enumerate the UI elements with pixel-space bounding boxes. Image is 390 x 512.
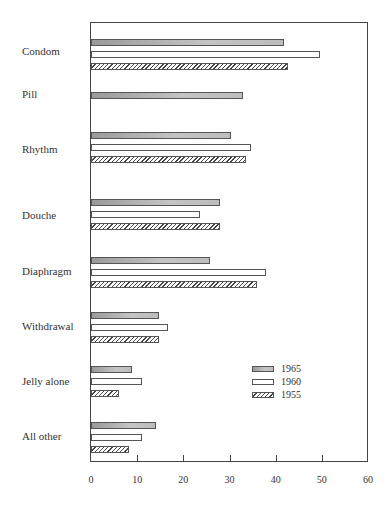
legend-item-1955: 1955 xyxy=(252,388,301,401)
legend-item-1965: 1965 xyxy=(252,362,301,375)
bar-pill-1965 xyxy=(91,92,243,99)
bar-diaphragm-1955 xyxy=(91,281,257,288)
tick-mark xyxy=(276,455,277,462)
bar-condom-1960 xyxy=(91,51,320,58)
label-rhythm: Rhythm xyxy=(22,143,57,155)
bar-withdrawal-1960 xyxy=(91,324,168,331)
tick-label: 50 xyxy=(317,474,327,485)
bar-douche-1960 xyxy=(91,211,200,218)
label-jelly-alone: Jelly alone xyxy=(22,375,69,387)
tick-mark xyxy=(183,455,184,462)
tick-label: 20 xyxy=(178,474,188,485)
legend-swatch-white xyxy=(252,379,274,385)
label-withdrawal: Withdrawal xyxy=(22,320,73,332)
bar-jelly-alone-1965 xyxy=(91,366,132,373)
bar-condom-1955 xyxy=(91,63,288,70)
bar-jelly-alone-1960 xyxy=(91,378,142,385)
bar-rhythm-1955 xyxy=(91,156,246,163)
bar-rhythm-1965 xyxy=(91,132,231,139)
tick-label: 30 xyxy=(225,474,235,485)
bar-douche-1965 xyxy=(91,199,220,206)
bar-diaphragm-1965 xyxy=(91,257,210,264)
tick-label: 60 xyxy=(363,474,373,485)
tick-mark xyxy=(137,455,138,462)
bar-all-other-1965 xyxy=(91,422,156,429)
tick-mark xyxy=(322,455,323,462)
label-pill: Pill xyxy=(22,88,37,100)
bar-rhythm-1960 xyxy=(91,144,251,151)
legend-swatch-gray xyxy=(252,366,274,372)
label-all-other: All other xyxy=(22,430,61,442)
legend-label: 1965 xyxy=(281,363,301,374)
tick-label: 10 xyxy=(132,474,142,485)
tick-mark xyxy=(230,455,231,462)
legend-label: 1960 xyxy=(281,376,301,387)
legend: 1965 1960 1955 xyxy=(252,362,301,401)
label-douche: Douche xyxy=(22,209,56,221)
label-condom: Condom xyxy=(22,45,60,57)
label-diaphragm: Diaphragm xyxy=(22,265,71,277)
tick-label: 0 xyxy=(89,474,94,485)
bar-diaphragm-1960 xyxy=(91,269,266,276)
bar-withdrawal-1965 xyxy=(91,312,159,319)
bar-condom-1965 xyxy=(91,39,284,46)
bar-all-other-1960 xyxy=(91,434,142,441)
legend-label: 1955 xyxy=(281,389,301,400)
bar-all-other-1955 xyxy=(91,446,129,453)
bar-withdrawal-1955 xyxy=(91,336,159,343)
tick-label: 40 xyxy=(271,474,281,485)
bar-jelly-alone-1955 xyxy=(91,390,119,397)
plot-frame xyxy=(90,22,368,462)
bar-douche-1955 xyxy=(91,223,220,230)
legend-item-1960: 1960 xyxy=(252,375,301,388)
legend-swatch-hatched xyxy=(252,392,274,398)
